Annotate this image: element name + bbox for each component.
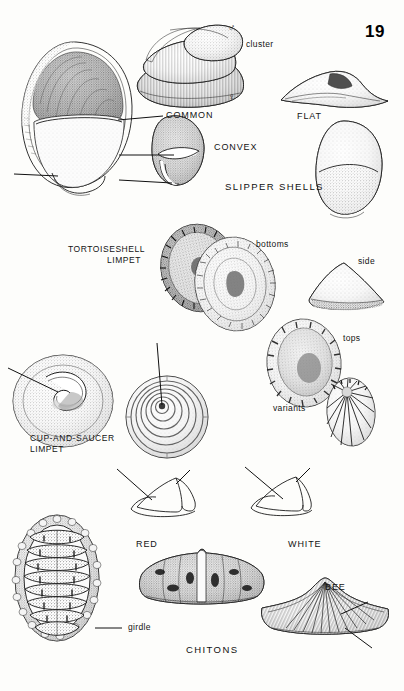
- heading-slipper-shells: SLIPPER SHELLS: [225, 182, 324, 193]
- figure-common-slipper-shell: [14, 42, 163, 195]
- label-tops: tops: [343, 334, 360, 344]
- label-bottoms: bottoms: [256, 240, 289, 250]
- label-red: RED: [136, 539, 158, 549]
- label-cup-and-saucer-line2: LIMPET: [30, 445, 64, 455]
- figure-white-chiton-plate-diagram: [245, 467, 312, 516]
- label-side: side: [358, 257, 375, 267]
- illustrated-plate-page: 19: [0, 0, 404, 691]
- label-flat: FLAT: [297, 111, 322, 121]
- figure-tortoiseshell-limpet-bottoms: [153, 217, 281, 336]
- label-bee: BEE: [325, 582, 346, 592]
- label-cluster: cluster: [246, 40, 274, 50]
- figure-convex-slipper-shell: [119, 116, 204, 185]
- label-variants: variants: [273, 404, 306, 414]
- leader-line-white-plate-b: [296, 468, 310, 482]
- label-convex: CONVEX: [214, 142, 257, 152]
- male-symbol-icon: ♂: [228, 22, 236, 34]
- leader-line-common: [118, 116, 163, 120]
- figure-red-chiton-plate-diagram: [117, 469, 195, 517]
- leader-line-red-plate-a: [117, 469, 152, 500]
- figure-flat-slipper-top: [316, 121, 382, 218]
- label-cup-and-saucer-line1: CUP-AND-SAUCER: [30, 434, 115, 444]
- label-tortoiseshell-limpet-line1: TORTOISESHELL: [68, 245, 145, 255]
- label-white: WHITE: [288, 539, 322, 549]
- female-symbol-icon: ♀: [228, 91, 236, 103]
- figure-flat-slipper-side: [281, 71, 388, 107]
- label-tortoiseshell-limpet-line2: LIMPET: [107, 256, 141, 266]
- leader-line-white-plate-a: [245, 467, 283, 499]
- figure-red-chiton-body: [140, 549, 264, 604]
- figure-limpet-side-view: [309, 263, 384, 310]
- label-common: COMMON: [166, 110, 213, 120]
- heading-chitons: CHITONS: [186, 645, 238, 656]
- label-girdle: girdle: [128, 623, 151, 633]
- figure-cup-and-saucer-exterior: [126, 343, 208, 458]
- figure-chiton-dorsal-girdle: [12, 515, 122, 641]
